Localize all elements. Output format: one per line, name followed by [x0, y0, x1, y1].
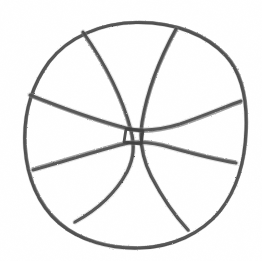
- basketball-sketch: Rough pencil sketch of a basketball with…: [0, 0, 262, 261]
- sketch-canvas: Rough pencil sketch of a basketball with…: [0, 0, 262, 261]
